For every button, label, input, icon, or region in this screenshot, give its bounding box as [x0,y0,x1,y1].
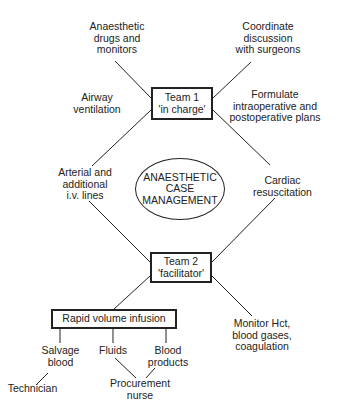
node-arterial-lines: Arterial and additional i.v. lines [45,167,125,202]
node-anaesthetic-drugs: Anaesthetic drugs and monitors [72,21,162,56]
node-salvage-blood: Salvage blood [33,345,88,368]
node-formulate-plans: Formulate intraoperative and postoperati… [215,89,335,124]
team1-box: Team 1 'in charge' [151,87,213,120]
node-cardiac-resuscitation: Cardiac resuscitation [245,175,320,198]
node-procurement-nurse: Procurement nurse [105,378,175,401]
team2-box: Team 2 'facilitator' [150,252,212,283]
line-team2-rapid [114,276,150,309]
line-team2-arterial [89,201,150,262]
node-airway-ventilation: Airway ventilation [62,92,132,115]
rapid-volume-infusion-box: Rapid volume infusion [51,309,177,329]
line-team1-arterial [92,110,151,166]
node-technician: Technician [5,383,60,395]
node-blood-products: Blood products [143,345,193,368]
line-team2-cardiac [212,198,275,262]
anaesthetic-case-management-diagram: Anaesthetic drugs and monitors Coordinat… [0,0,339,413]
node-fluids: Fluids [93,345,133,357]
node-monitor-hct: Monitor Hct, blood gases, coagulation [222,318,302,353]
line-fluids-procurement [115,358,136,378]
center-ellipse: ANAESTHETIC CASE MANAGEMENT [135,158,225,220]
node-coordinate-discussion: Coordinate discussion with surgeons [218,21,318,56]
line-team2-monitor [212,276,252,316]
